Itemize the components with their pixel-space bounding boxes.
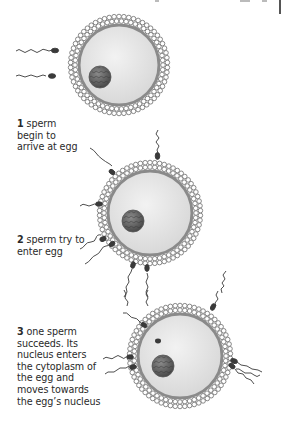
nucleus-icon	[152, 355, 174, 377]
step-1-caption: 1 sperm begin to arrive at egg	[17, 118, 107, 153]
nucleus-icon	[122, 210, 144, 232]
step-2-number: 2	[17, 234, 24, 245]
sperm-icon	[16, 48, 59, 78]
step-3-caption: 3 one sperm succeeds. Its nucleus enters…	[17, 326, 117, 407]
egg-cell-icon	[68, 14, 169, 116]
step-1-number: 1	[17, 118, 24, 129]
step-3-number: 3	[17, 326, 24, 337]
step-2-caption: 2 sperm try to enter egg	[17, 234, 117, 257]
nucleus-icon	[89, 66, 111, 88]
egg-cell-icon	[127, 303, 232, 409]
sperm-nucleus-icon	[155, 339, 161, 344]
